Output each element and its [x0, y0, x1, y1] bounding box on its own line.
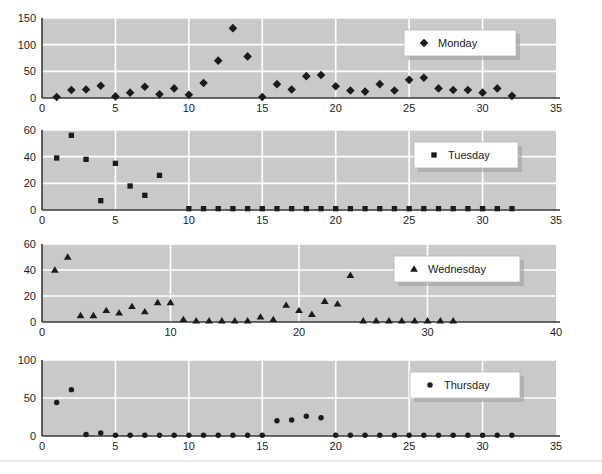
x-axis-tick-label: 35: [550, 440, 562, 452]
legend-label-monday: Monday: [438, 37, 478, 49]
data-point-marker: [186, 433, 191, 438]
data-point-marker: [333, 433, 338, 438]
data-point-marker: [83, 157, 88, 162]
data-point-marker: [392, 206, 397, 211]
data-point-marker: [450, 433, 455, 438]
y-axis-tick-label: 40: [24, 151, 36, 163]
legend-label-wednesday: Wednesday: [428, 263, 486, 275]
data-point-marker: [260, 206, 265, 211]
data-point-marker: [362, 206, 367, 211]
data-point-marker: [333, 206, 338, 211]
data-point-marker: [216, 433, 221, 438]
data-point-marker: [216, 206, 221, 211]
x-axis-tick-label: 30: [476, 102, 488, 114]
x-axis-tick-label: 25: [403, 214, 415, 226]
data-point-marker: [421, 206, 426, 211]
x-axis-tick-label: 20: [330, 440, 342, 452]
data-point-marker: [127, 433, 132, 438]
y-axis-tick-label: 100: [18, 354, 36, 366]
x-axis-tick-label: 40: [550, 326, 562, 338]
data-point-marker: [509, 206, 514, 211]
y-axis-tick-label: 20: [24, 177, 36, 189]
data-point-marker: [318, 206, 323, 211]
data-point-marker: [427, 382, 432, 387]
data-point-marker: [406, 206, 411, 211]
data-point-marker: [451, 206, 456, 211]
data-point-marker: [392, 433, 397, 438]
x-axis-tick-label: 5: [112, 440, 118, 452]
data-point-marker: [480, 206, 485, 211]
data-point-marker: [377, 433, 382, 438]
scatter-chart-tuesday: 020406005101520253035Tuesday: [0, 118, 602, 232]
chart-panel-thursday: 05010005101520253035Thursday: [0, 348, 602, 460]
data-point-marker: [245, 433, 250, 438]
x-axis-tick-label: 5: [112, 102, 118, 114]
x-axis-tick-label: 10: [164, 326, 176, 338]
data-point-marker: [362, 433, 367, 438]
x-axis-tick-label: 30: [476, 214, 488, 226]
legend-label-tuesday: Tuesday: [448, 149, 490, 161]
legend-label-thursday: Thursday: [444, 379, 490, 391]
x-axis-tick-label: 10: [183, 214, 195, 226]
x-axis-tick-label: 0: [39, 440, 45, 452]
x-axis-tick-label: 20: [330, 102, 342, 114]
data-point-marker: [509, 433, 514, 438]
data-point-marker: [495, 206, 500, 211]
x-axis-tick-label: 25: [403, 102, 415, 114]
data-point-marker: [245, 206, 250, 211]
data-point-marker: [113, 161, 118, 166]
x-axis-tick-label: 30: [476, 440, 488, 452]
x-axis-tick-label: 35: [550, 214, 562, 226]
data-point-marker: [304, 206, 309, 211]
data-point-marker: [201, 433, 206, 438]
data-point-marker: [431, 152, 436, 157]
y-axis-tick-label: 100: [18, 39, 36, 51]
data-point-marker: [436, 433, 441, 438]
x-axis-tick-label: 35: [550, 102, 562, 114]
figure-page: 05010015005101520253035Monday 0204060051…: [0, 0, 602, 474]
y-axis-tick-label: 60: [24, 124, 36, 136]
y-axis-tick-label: 60: [24, 238, 36, 250]
y-axis-tick-label: 150: [18, 12, 36, 24]
data-point-marker: [495, 433, 500, 438]
data-point-marker: [142, 193, 147, 198]
data-point-marker: [289, 417, 294, 422]
data-point-marker: [157, 433, 162, 438]
data-point-marker: [54, 155, 59, 160]
x-axis-tick-label: 0: [39, 214, 45, 226]
data-point-marker: [69, 133, 74, 138]
data-point-marker: [304, 414, 309, 419]
data-point-marker: [274, 418, 279, 423]
x-axis-tick-label: 30: [421, 326, 433, 338]
data-point-marker: [127, 183, 132, 188]
chart-panel-wednesday: 0204060010203040Wednesday: [0, 232, 602, 348]
data-point-marker: [406, 433, 411, 438]
data-point-marker: [436, 206, 441, 211]
scatter-chart-wednesday: 0204060010203040Wednesday: [0, 232, 602, 348]
x-axis-tick-label: 5: [112, 214, 118, 226]
x-axis-tick-label: 20: [293, 326, 305, 338]
chart-panel-tuesday: 020406005101520253035Tuesday: [0, 118, 602, 232]
data-point-marker: [274, 206, 279, 211]
scatter-chart-thursday: 05010005101520253035Thursday: [0, 348, 602, 460]
data-point-marker: [289, 206, 294, 211]
y-axis-tick-label: 20: [24, 290, 36, 302]
data-point-marker: [348, 433, 353, 438]
y-axis-tick-label: 0: [30, 92, 36, 104]
data-point-marker: [230, 433, 235, 438]
y-axis-tick-label: 50: [24, 65, 36, 77]
data-point-marker: [465, 433, 470, 438]
y-axis-tick-label: 0: [30, 204, 36, 216]
data-point-marker: [98, 430, 103, 435]
y-axis-tick-label: 0: [30, 430, 36, 442]
chart-panel-monday: 05010015005101520253035Monday: [0, 0, 602, 118]
x-axis-tick-label: 15: [256, 102, 268, 114]
x-axis-tick-label: 0: [39, 326, 45, 338]
x-axis-tick-label: 15: [256, 214, 268, 226]
data-point-marker: [260, 433, 265, 438]
x-axis-tick-label: 15: [256, 440, 268, 452]
scatter-chart-monday: 05010015005101520253035Monday: [0, 0, 602, 118]
data-point-marker: [421, 433, 426, 438]
data-point-marker: [377, 206, 382, 211]
y-axis-tick-label: 40: [24, 264, 36, 276]
